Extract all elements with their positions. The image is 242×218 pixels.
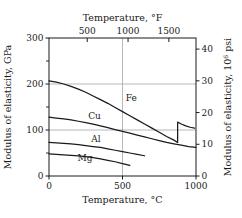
y-axis-title: Modulus of elasticity, GPa: [2, 44, 13, 169]
series-label-al: Al: [90, 134, 100, 144]
y2tick-label-0: 0: [202, 171, 208, 181]
modulus-vs-temperature-chart: 05001000Temperature, °C50010001500Temper…: [0, 0, 242, 218]
xtick-label-500: 500: [114, 181, 131, 191]
x-axis-title: Temperature, °C: [82, 194, 162, 205]
chart-figure: 05001000Temperature, °C50010001500Temper…: [0, 0, 242, 218]
curve-fe-segment2: [178, 122, 195, 128]
xtick-label-0: 0: [46, 181, 52, 191]
y2tick-label-30: 30: [202, 76, 214, 86]
ytick-label-200: 200: [26, 79, 43, 89]
series-label-fe: Fe: [126, 93, 137, 103]
ytick-label-300: 300: [26, 33, 43, 43]
ytick-label-100: 100: [26, 125, 43, 135]
y2tick-label-10: 10: [202, 139, 214, 149]
x2tick-label-500: 500: [79, 26, 96, 36]
xtick-label-1000: 1000: [185, 181, 208, 191]
y2tick-label-20: 20: [202, 108, 214, 118]
series-label-cu: Cu: [88, 111, 101, 121]
x2tick-label-1000: 1000: [117, 26, 140, 36]
x2tick-label-1500: 1500: [157, 26, 180, 36]
y2-axis-title: Modulus of elasticity, 106 psi: [222, 38, 233, 176]
x2-axis-title: Temperature, °F: [83, 12, 163, 23]
curve-al: [49, 142, 145, 155]
curve-fe: [49, 81, 178, 143]
ytick-label-0: 0: [38, 171, 44, 181]
y2tick-label-40: 40: [202, 44, 214, 54]
series-label-mg: Mg: [78, 153, 93, 163]
